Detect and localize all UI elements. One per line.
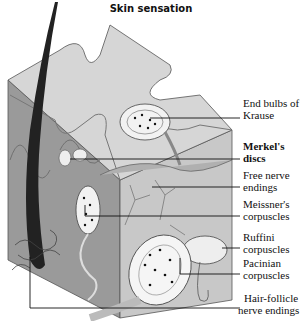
label-merkels-discs: Merkel's discs xyxy=(243,140,285,164)
label-end-bulbs-of-krause: End bulbs of Krause xyxy=(243,97,299,121)
krause-end-bulb xyxy=(120,104,170,140)
label-free-nerve-endings: Free nerve endings xyxy=(243,169,290,193)
label-hair-follicle-nerve-endings: Hair-follicle nerve endings xyxy=(238,292,299,316)
label-ruffini-corpuscles: Ruffini corpuscles xyxy=(243,231,289,255)
merkel-discs xyxy=(59,150,71,166)
label-pacinian-corpuscles: Pacinian corpuscles xyxy=(243,257,289,281)
label-meissners-corpuscles: Meissner's corpuscles xyxy=(243,198,290,222)
meissner-corpuscle xyxy=(76,186,100,234)
